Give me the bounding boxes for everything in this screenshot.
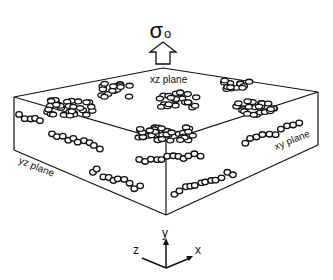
particle [88,104,95,109]
particle [126,180,133,186]
particle [77,106,84,111]
chain-xy [136,151,204,164]
particle [255,104,262,109]
particle [167,95,174,100]
up-arrow-icon [150,42,176,64]
particle [245,79,252,84]
particle [68,109,75,114]
particle [93,166,100,172]
x-axis-label: x [195,243,201,257]
particle [156,96,163,101]
particle [49,112,56,117]
particle [218,175,225,181]
particle [167,138,174,143]
cluster-top [221,78,253,91]
axis-triad [142,238,193,268]
particle [230,172,237,178]
xz-plane-label: xz plane [150,74,188,85]
particle [265,101,272,106]
particle [146,128,153,133]
z-axis-label: z [133,243,139,257]
particle [137,183,144,189]
particle-clusters [16,78,303,197]
particle [75,99,82,104]
particle [137,127,144,132]
particle [165,102,172,107]
particle [176,188,183,194]
cluster-top [156,90,200,110]
particle [259,132,266,138]
particle [244,99,251,104]
particle [184,92,191,97]
particle [221,78,228,83]
stress-symbol: σ [149,18,163,43]
particle [235,101,242,106]
particle [110,84,117,89]
particle [74,139,81,145]
particle [278,126,285,132]
particle [158,137,165,142]
chain-xy [171,170,236,198]
cluster-top [233,99,278,117]
particle [193,95,200,100]
particle [191,103,198,108]
particle [125,94,132,99]
particle [227,85,234,90]
particle [239,85,246,90]
particle [114,176,121,182]
particle [101,81,108,86]
particle [53,102,60,107]
chain-yz [49,131,103,152]
particle [197,153,204,159]
particle [83,100,90,105]
particle [172,103,179,108]
y-axis-label: y [162,226,168,240]
particle [97,146,104,152]
particle [37,118,44,124]
particle [101,94,108,99]
diagram: σ o xz plane yz plane xy plane y z x [0,0,333,280]
particle [272,132,279,138]
z-axis [142,258,166,268]
x-axis [166,258,190,268]
cluster-top [44,98,96,118]
particle [148,156,155,162]
particle [16,112,23,118]
particle [244,111,251,116]
chain-yz [90,166,144,191]
particle [177,90,184,95]
yz-plane-label: yz plane [17,155,56,179]
particle [177,138,184,143]
cluster-top [98,81,133,99]
particle [185,129,192,134]
particle [184,100,191,105]
particle [99,87,106,92]
particle [191,183,198,189]
particle [126,83,133,88]
particle [158,126,165,131]
particle [45,107,52,112]
particle [247,136,254,142]
particle [168,130,175,135]
particle [91,143,98,149]
particle [83,112,90,117]
cluster-top [135,125,196,143]
stress-subscript: o [164,26,171,41]
particle [117,85,124,90]
chain-yz [16,112,43,124]
particle [245,104,252,109]
particle [267,107,274,112]
particle [284,123,291,129]
particle [296,120,303,126]
